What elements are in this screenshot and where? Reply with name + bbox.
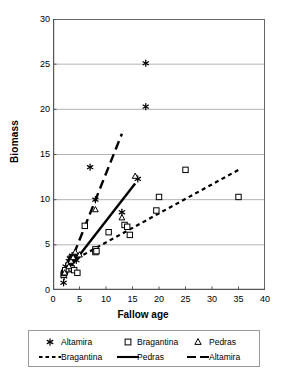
x-tick-20: 20	[147, 295, 171, 304]
x-tick-30: 30	[200, 295, 224, 304]
y-axis-title: Biomass	[9, 107, 20, 177]
y-tick-10: 10	[28, 195, 50, 204]
legend-symbol-asterisk	[47, 339, 53, 345]
legend-label-bragantina-dotted-line: Bragantina	[61, 353, 102, 362]
legend-symbol-square	[125, 339, 131, 345]
x-tick-15: 15	[121, 295, 145, 304]
chart-figure: Biomass Fallow age 051015202530 05101520…	[0, 0, 286, 373]
x-axis-tick-labels: 0510152025303540	[0, 295, 286, 309]
legend-label-pedras-solid-line: Pedras	[137, 353, 164, 362]
x-tick-40: 40	[253, 295, 277, 304]
chart-legend: AltamiraBragantinaPedrasBragantinaPedras…	[28, 330, 260, 367]
legend-label-pedras-triangle: Pedras	[209, 338, 236, 347]
y-tick-5: 5	[28, 240, 50, 249]
y-tick-20: 20	[28, 105, 50, 114]
legend-symbol-triangle	[195, 339, 201, 345]
legend-label-bragantina-square: Bragantina	[137, 338, 178, 347]
y-tick-30: 30	[28, 15, 50, 24]
plot-svg	[53, 19, 265, 290]
legend-label-altamira-dashed-line: Altamira	[209, 353, 240, 362]
plot-area	[53, 19, 265, 290]
x-tick-10: 10	[94, 295, 118, 304]
x-tick-25: 25	[174, 295, 198, 304]
x-tick-0: 0	[41, 295, 65, 304]
series-bragantina-square	[61, 167, 241, 277]
y-tick-15: 15	[28, 150, 50, 159]
legend-entries: AltamiraBragantinaPedrasBragantinaPedras…	[29, 331, 259, 366]
y-axis-tick-labels: 051015202530	[24, 0, 50, 300]
y-tick-25: 25	[28, 60, 50, 69]
x-tick-35: 35	[227, 295, 251, 304]
y-tick-0: 0	[28, 286, 50, 295]
legend-label-altamira-asterisk: Altamira	[61, 338, 92, 347]
x-tick-5: 5	[68, 295, 92, 304]
x-axis-title: Fallow age	[0, 309, 286, 320]
